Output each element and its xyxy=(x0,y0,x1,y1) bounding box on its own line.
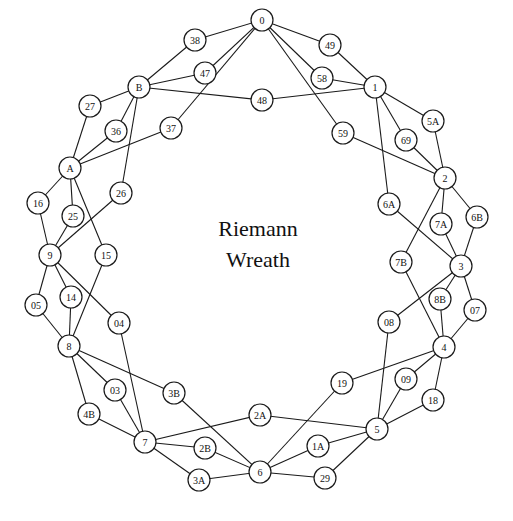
title-line-2: Wreath xyxy=(226,247,290,272)
node-label: 08 xyxy=(384,317,394,328)
node-label: 58 xyxy=(317,73,327,84)
edge-B-48 xyxy=(139,87,262,100)
node-7B: 7B xyxy=(390,251,412,273)
node-label: 7 xyxy=(143,437,148,448)
node-label: 25 xyxy=(68,211,78,222)
node-7: 7 xyxy=(134,431,156,453)
node-label: 3A xyxy=(193,475,206,486)
node-59: 59 xyxy=(332,122,354,144)
node-label: 16 xyxy=(33,198,43,209)
node-label: 6 xyxy=(258,467,263,478)
node-label: 14 xyxy=(66,292,76,303)
edge-5-2A xyxy=(260,415,377,429)
node-18: 18 xyxy=(422,389,444,411)
edge-6-19 xyxy=(260,383,342,472)
node-7A: 7A xyxy=(430,213,452,235)
node-label: 04 xyxy=(114,318,124,329)
node-37: 37 xyxy=(160,117,182,139)
node-label: 15 xyxy=(101,250,111,261)
node-label: 05 xyxy=(31,300,41,311)
node-19: 19 xyxy=(331,372,353,394)
node-label: 5A xyxy=(427,116,440,127)
node-5A: 5A xyxy=(422,110,444,132)
node-58: 58 xyxy=(311,67,333,89)
node-25: 25 xyxy=(62,205,84,227)
node-A: A xyxy=(59,157,81,179)
node-16: 16 xyxy=(27,192,49,214)
node-07: 07 xyxy=(464,299,486,321)
node-label: 9 xyxy=(48,250,53,261)
node-label: A xyxy=(66,163,74,174)
node-label: 18 xyxy=(428,395,438,406)
node-label: 3B xyxy=(168,388,180,399)
node-15: 15 xyxy=(95,244,117,266)
node-29: 29 xyxy=(314,467,336,489)
node-03: 03 xyxy=(104,379,126,401)
node-label: 5 xyxy=(375,424,380,435)
node-label: 4B xyxy=(83,409,95,420)
node-label: 7B xyxy=(395,257,407,268)
node-6B: 6B xyxy=(466,206,488,228)
node-label: 7A xyxy=(435,219,448,230)
node-label: 6A xyxy=(383,199,396,210)
title-line-1: Riemann xyxy=(218,216,297,241)
node-label: 47 xyxy=(200,68,210,79)
node-6: 6 xyxy=(249,461,271,483)
node-1: 1 xyxy=(364,76,386,98)
node-27: 27 xyxy=(79,95,101,117)
node-5: 5 xyxy=(366,418,388,440)
edge-B-26 xyxy=(121,87,139,193)
node-4: 4 xyxy=(433,336,455,358)
node-label: 38 xyxy=(190,35,200,46)
node-label: 03 xyxy=(110,385,120,396)
node-48: 48 xyxy=(251,89,273,111)
edge-0-58 xyxy=(262,20,322,78)
node-label: 26 xyxy=(116,188,126,199)
node-2B: 2B xyxy=(194,437,216,459)
node-08: 08 xyxy=(378,311,400,333)
node-3B: 3B xyxy=(163,382,185,404)
node-09: 09 xyxy=(395,368,417,390)
node-2A: 2A xyxy=(249,404,271,426)
riemann-wreath-diagram: 038494758B481273637595A69A22616256A7A6B9… xyxy=(0,0,513,521)
node-1A: 1A xyxy=(307,435,329,457)
node-8: 8 xyxy=(58,335,80,357)
node-9: 9 xyxy=(39,244,61,266)
node-label: 69 xyxy=(401,135,411,146)
node-label: 2 xyxy=(443,173,448,184)
edge-2-59 xyxy=(343,133,445,178)
node-26: 26 xyxy=(110,182,132,204)
node-14: 14 xyxy=(60,286,82,308)
node-label: 36 xyxy=(111,126,121,137)
node-04: 04 xyxy=(108,312,130,334)
edge-1-6A xyxy=(375,87,389,204)
node-label: 0 xyxy=(260,15,265,26)
node-label: 29 xyxy=(320,473,330,484)
node-4B: 4B xyxy=(78,403,100,425)
node-38: 38 xyxy=(184,29,206,51)
node-label: 8 xyxy=(67,341,72,352)
node-label: 59 xyxy=(338,128,348,139)
node-47: 47 xyxy=(194,62,216,84)
node-36: 36 xyxy=(105,120,127,142)
node-3: 3 xyxy=(450,255,472,277)
edge-4-19 xyxy=(342,347,444,383)
node-8B: 8B xyxy=(429,288,451,310)
node-label: 4 xyxy=(442,342,447,353)
node-3A: 3A xyxy=(188,469,210,491)
node-label: 19 xyxy=(337,378,347,389)
node-label: 49 xyxy=(325,40,335,51)
node-label: 2A xyxy=(254,410,267,421)
node-label: 48 xyxy=(257,95,267,106)
edge-5-08 xyxy=(377,322,389,429)
node-69: 69 xyxy=(395,129,417,151)
node-label: 2B xyxy=(199,443,211,454)
node-label: 1A xyxy=(312,441,325,452)
node-05: 05 xyxy=(25,294,47,316)
node-B: B xyxy=(128,76,150,98)
node-0: 0 xyxy=(251,9,273,31)
node-label: 37 xyxy=(166,123,176,134)
node-label: 09 xyxy=(401,374,411,385)
node-label: 8B xyxy=(434,294,446,305)
node-label: 3 xyxy=(459,261,464,272)
